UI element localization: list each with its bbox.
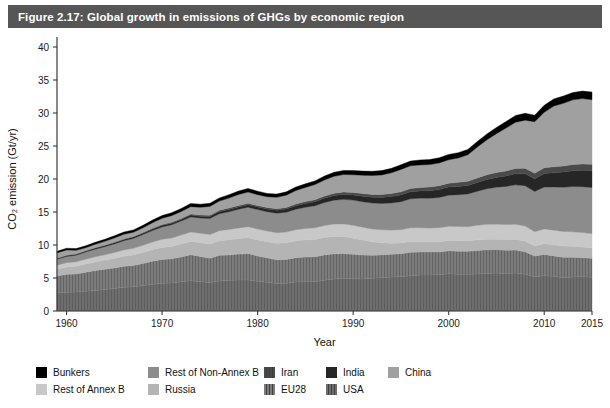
legend-label: India — [343, 367, 365, 378]
y-tick-label: 5 — [43, 273, 49, 284]
legend-item-rest-of-annex-b[interactable]: Rest of Annex B — [36, 381, 125, 398]
legend-item-india[interactable]: India — [326, 364, 365, 381]
legend-label: Bunkers — [53, 367, 90, 378]
legend-row: BunkersRest of Non-Annex BIranIndiaChina — [36, 364, 596, 381]
legend-swatch-icon — [148, 384, 159, 395]
legend-row: Rest of Annex BRussiaEU28USA — [36, 381, 596, 398]
y-axis-title: CO₂ emission (Gt/yr) — [6, 128, 18, 229]
x-tick-label: 1960 — [55, 318, 78, 329]
legend-item-china[interactable]: China — [388, 364, 431, 381]
legend-swatch-icon — [326, 384, 337, 395]
legend-label: Iran — [281, 367, 298, 378]
legend-item-eu28[interactable]: EU28 — [264, 381, 306, 398]
legend-item-iran[interactable]: Iran — [264, 364, 298, 381]
legend-swatch-icon — [36, 384, 47, 395]
figure-root: Figure 2.17: Global growth in emissions … — [0, 0, 610, 408]
figure-title-bar: Figure 2.17: Global growth in emissions … — [8, 5, 602, 28]
legend-label: EU28 — [281, 384, 306, 395]
y-tick-label: 30 — [38, 108, 50, 119]
chart-legend: BunkersRest of Non-Annex BIranIndiaChina… — [36, 364, 596, 404]
legend-item-russia[interactable]: Russia — [148, 381, 196, 398]
x-tick-label: 1980 — [247, 318, 270, 329]
legend-label: Russia — [165, 384, 196, 395]
legend-label: USA — [343, 384, 364, 395]
y-tick-label: 25 — [38, 141, 50, 152]
figure-title: Figure 2.17: Global growth in emissions … — [18, 11, 404, 23]
x-tick-label: 2010 — [533, 318, 556, 329]
legend-swatch-icon — [264, 367, 275, 378]
legend-label: Rest of Non-Annex B — [165, 367, 259, 378]
legend-swatch-icon — [388, 367, 399, 378]
legend-swatch-icon — [148, 367, 159, 378]
x-tick-label: 1990 — [342, 318, 365, 329]
legend-swatch-icon — [264, 384, 275, 395]
x-tick-label: 2000 — [438, 318, 461, 329]
legend-label: Rest of Annex B — [53, 384, 125, 395]
legend-swatch-icon — [36, 367, 47, 378]
legend-item-rest-of-non-annex-b[interactable]: Rest of Non-Annex B — [148, 364, 259, 381]
x-tick-label: 2015 — [581, 318, 604, 329]
y-tick-label: 20 — [38, 174, 50, 185]
legend-item-usa[interactable]: USA — [326, 381, 364, 398]
y-tick-label: 0 — [43, 306, 49, 317]
legend-label: China — [405, 367, 431, 378]
y-tick-label: 40 — [38, 42, 50, 53]
area-layers — [57, 91, 592, 311]
legend-item-bunkers[interactable]: Bunkers — [36, 364, 90, 381]
y-tick-label: 10 — [38, 240, 50, 251]
y-tick-label: 35 — [38, 75, 50, 86]
legend-swatch-icon — [326, 367, 337, 378]
y-tick-label: 15 — [38, 207, 50, 218]
x-tick-label: 1970 — [151, 318, 174, 329]
stacked-area-chart: 0510152025303540196019701980199020002010… — [0, 30, 610, 360]
chart-plot-area: 0510152025303540196019701980199020002010… — [0, 30, 610, 360]
x-axis-title: Year — [313, 336, 336, 348]
